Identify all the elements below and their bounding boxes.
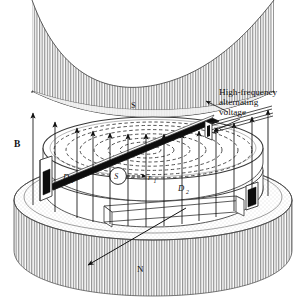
dee-right-label: D <box>177 183 185 193</box>
ion-source: S <box>110 168 127 185</box>
dee-right-label-subscript: 2 <box>186 189 189 195</box>
hf-voltage-line2: alternating <box>219 97 259 107</box>
cyclotron-illustration: S N <box>0 0 307 306</box>
pole-label-top: S <box>131 100 136 110</box>
dee-left-label: D <box>62 172 70 182</box>
hf-voltage-line1: High-frequency <box>219 87 278 97</box>
dee-left-endwall <box>40 156 52 201</box>
radius-label-subscript: 1 <box>153 178 156 184</box>
ion-source-label: S <box>114 172 118 181</box>
pole-label-bottom: N <box>137 264 144 274</box>
field-label-b: B <box>14 139 21 149</box>
hf-voltage-line3: voltage <box>219 107 246 117</box>
dee-left-label-subscript: 1 <box>71 178 74 184</box>
cyclotron-figure: S N <box>0 0 307 306</box>
